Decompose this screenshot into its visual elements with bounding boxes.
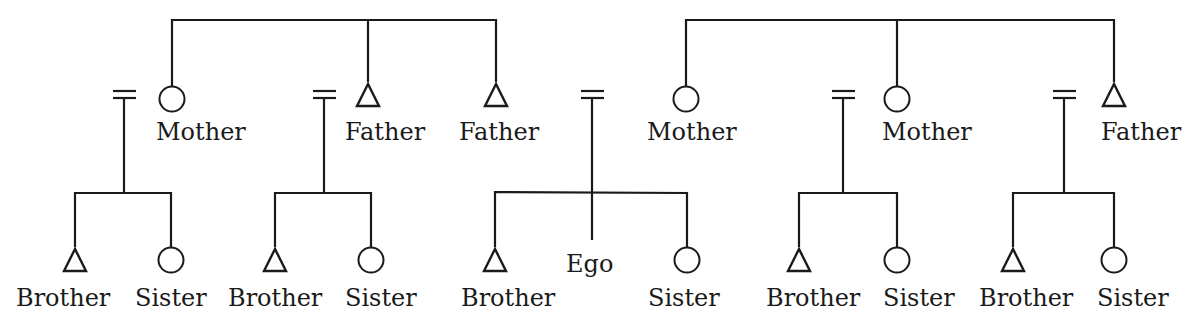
female-symbol-p5	[885, 87, 910, 112]
female-symbol-f3-sister	[675, 248, 700, 273]
children-bar	[275, 193, 371, 247]
label-ego: Ego	[566, 250, 613, 278]
label-f2-brother: Brother	[228, 284, 323, 312]
label-p6: Father	[1101, 118, 1182, 146]
label-f3-sister: Sister	[648, 284, 720, 312]
label-p4: Mother	[647, 118, 737, 146]
label-p3: Father	[459, 118, 540, 146]
label-f5-brother: Brother	[979, 284, 1074, 312]
children-bar	[799, 193, 897, 247]
label-f3-brother: Brother	[461, 284, 556, 312]
female-symbol-p4	[674, 87, 699, 112]
female-symbol-f2-sister	[359, 248, 384, 273]
marriage-family-4	[799, 91, 897, 247]
female-symbol-f5-sister	[1102, 248, 1127, 273]
label-f1-brother: Brother	[16, 284, 111, 312]
right-sibling-group	[686, 20, 1114, 87]
sibling-bar-right	[686, 20, 1114, 87]
marriage-family-2	[275, 91, 371, 247]
label-f5-sister: Sister	[1097, 284, 1169, 312]
children-bar	[75, 193, 171, 247]
male-symbol-p2	[357, 84, 379, 106]
label-p1: Mother	[156, 118, 246, 146]
kinship-diagram: Mother Father Father Mother Mother Fathe…	[0, 0, 1200, 325]
label-p5: Mother	[882, 118, 972, 146]
label-f1-sister: Sister	[135, 284, 207, 312]
male-symbol-f5-brother	[1002, 249, 1024, 271]
sibling-bar-left	[172, 20, 496, 87]
marriage-family-3-ego	[495, 91, 687, 247]
label-f4-brother: Brother	[766, 284, 861, 312]
female-symbol-f1-sister	[159, 248, 184, 273]
label-p2: Father	[345, 118, 426, 146]
male-symbol-f4-brother	[788, 249, 810, 271]
female-symbol-f4-sister	[885, 248, 910, 273]
male-symbol-f1-brother	[64, 249, 86, 271]
marriage-family-1	[75, 91, 171, 247]
left-sibling-group	[172, 20, 496, 87]
female-symbol-p1	[160, 87, 185, 112]
male-symbol-p3	[485, 84, 507, 106]
male-symbol-f3-brother	[484, 249, 506, 271]
label-f4-sister: Sister	[883, 284, 955, 312]
male-symbol-p6	[1103, 84, 1125, 106]
label-f2-sister: Sister	[345, 284, 417, 312]
marriage-family-5	[1013, 91, 1114, 247]
male-symbol-f2-brother	[264, 249, 286, 271]
children-bar	[1013, 193, 1114, 247]
